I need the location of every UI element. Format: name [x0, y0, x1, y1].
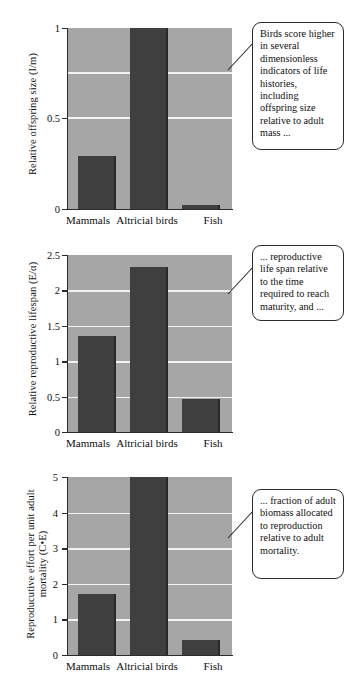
y-tick-label: 2	[32, 286, 60, 296]
plot-area	[68, 477, 232, 655]
bar-altricial-birds	[130, 477, 168, 655]
plot-area	[68, 255, 232, 432]
y-tick-label: 1	[36, 24, 60, 34]
y-tick	[62, 255, 67, 256]
y-tick	[62, 584, 67, 585]
y-tick	[62, 397, 67, 398]
y-tick	[62, 513, 67, 514]
y-axis-line	[67, 28, 68, 210]
category-label-altricial-birds: Altricial birds	[108, 437, 186, 449]
category-label-fish: Fish	[178, 660, 248, 672]
y-tick-label: 0.5	[32, 393, 60, 403]
bar-fish	[182, 399, 220, 432]
y-axis-line	[67, 255, 68, 433]
y-tick	[62, 655, 67, 656]
y-tick	[62, 290, 67, 291]
y-tick-label: 5	[34, 473, 58, 483]
y-tick	[62, 209, 67, 210]
category-label-altricial-birds: Altricial birds	[108, 660, 186, 672]
y-tick	[62, 548, 67, 549]
bar-fish	[182, 640, 220, 655]
bar-altricial-birds	[130, 28, 168, 209]
y-tick-label: 2.5	[32, 251, 60, 261]
plot-area	[68, 28, 232, 209]
chart-panel-reproductive-lifespan: Relative reproductive lifespan (E/α) 2.5…	[0, 228, 352, 452]
bar-mammals	[78, 336, 116, 432]
y-tick-label: 1	[34, 615, 58, 625]
callout-offspring-size: Birds score higher in several dimensionl…	[252, 22, 344, 150]
y-tick-label: 1	[32, 357, 60, 367]
bar-mammals	[78, 594, 116, 655]
category-label-altricial-birds: Altricial birds	[108, 214, 186, 226]
bar-altricial-birds	[130, 267, 168, 432]
category-label-fish: Fish	[178, 214, 248, 226]
y-tick-label: 0.5	[36, 114, 60, 124]
x-axis-line	[67, 655, 233, 656]
y-tick	[62, 118, 67, 119]
y-tick-label: 1.5	[32, 322, 60, 332]
chart-panel-offspring-size: Relative offspring size (I/m) 1 0.5 0 Ma…	[0, 0, 352, 228]
y-tick	[62, 326, 67, 327]
x-axis-line	[67, 432, 233, 433]
chart-panel-reproductive-effort: Reproducutive effort per unit adult mort…	[0, 452, 352, 674]
y-tick-label: 2	[34, 580, 58, 590]
y-tick	[62, 28, 67, 29]
y-tick	[62, 361, 67, 362]
callout-reproductive-lifespan: ... reproductive life span relative to t…	[252, 245, 344, 321]
y-tick	[62, 477, 67, 478]
x-axis-line	[67, 209, 233, 210]
y-tick	[62, 619, 67, 620]
callout-reproductive-effort: ... fraction of adult biomass allocated …	[252, 489, 344, 579]
y-tick	[62, 432, 67, 433]
bar-mammals	[78, 156, 116, 209]
y-tick-label: 4	[34, 509, 58, 519]
y-tick-label: 3	[34, 544, 58, 554]
y-axis-line	[67, 477, 68, 656]
category-label-fish: Fish	[178, 437, 248, 449]
